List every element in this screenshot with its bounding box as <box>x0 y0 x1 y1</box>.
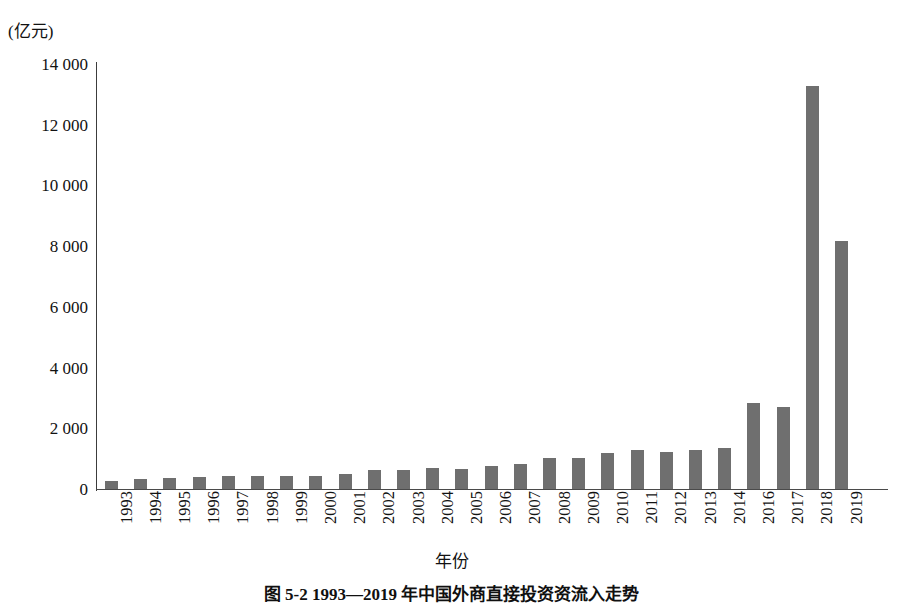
x-axis-tick-label: 1993 <box>119 491 135 551</box>
y-axis-tick-label: 14 000 <box>2 56 88 73</box>
x-axis-tick-label: 2007 <box>527 491 543 551</box>
y-axis-tick-label: 8 000 <box>2 238 88 255</box>
bar <box>485 466 498 489</box>
x-axis-tick-label: 2018 <box>819 491 835 551</box>
x-axis-tick-labels: 1993199419951996199719981999200020012002… <box>96 493 888 553</box>
x-axis-tick-label: 2014 <box>732 491 748 551</box>
x-axis-tick-label: 2013 <box>703 491 719 551</box>
bar <box>251 476 264 489</box>
bar <box>572 458 585 489</box>
x-axis-tick-label: 2006 <box>498 491 514 551</box>
bar <box>660 452 673 489</box>
x-axis-tick-label: 2008 <box>557 491 573 551</box>
x-axis-tick-label: 2005 <box>469 491 485 551</box>
x-axis-tick-label: 2010 <box>615 491 631 551</box>
bar <box>163 478 176 489</box>
bar <box>631 450 644 489</box>
bar <box>339 474 352 489</box>
x-axis-tick-label: 1996 <box>206 491 222 551</box>
x-axis-tick-label: 2017 <box>790 491 806 551</box>
bar <box>134 479 147 489</box>
bar <box>514 464 527 490</box>
x-axis-tick-label: 2003 <box>411 491 427 551</box>
bar-series <box>96 64 886 489</box>
x-axis-tick-label: 2004 <box>440 491 456 551</box>
figure-caption: 图 5-2 1993—2019 年中国外商直接投资资流入走势 <box>0 584 903 606</box>
bar <box>806 86 819 489</box>
x-axis-tick-label: 1997 <box>235 491 251 551</box>
x-axis-tick-label: 1998 <box>265 491 281 551</box>
bar <box>222 476 235 489</box>
x-axis-tick-label: 2002 <box>381 491 397 551</box>
figure-container: (亿元) 02 0004 0006 0008 00010 00012 00014… <box>0 0 903 606</box>
bar <box>718 448 731 489</box>
bar <box>105 481 118 490</box>
y-axis-tick-label: 0 <box>2 481 88 498</box>
y-axis-tick-labels: 02 0004 0006 0008 00010 00012 00014 000 <box>0 0 88 606</box>
y-axis-tick-label: 4 000 <box>2 359 88 376</box>
bar <box>368 470 381 489</box>
bar <box>397 470 410 489</box>
x-axis-tick-label: 2001 <box>352 491 368 551</box>
bar <box>193 477 206 489</box>
y-axis-tick-label: 12 000 <box>2 116 88 133</box>
bar <box>601 453 614 489</box>
y-axis-tick-label: 10 000 <box>2 177 88 194</box>
x-axis-tick-label: 1999 <box>294 491 310 551</box>
bar <box>455 469 468 489</box>
bar <box>777 407 790 489</box>
x-axis-tick-label: 2016 <box>761 491 777 551</box>
x-axis-tick-label: 2012 <box>673 491 689 551</box>
x-axis-tick-label: 2019 <box>849 491 865 551</box>
bar <box>543 458 556 489</box>
bar <box>747 403 760 489</box>
x-axis-title: 年份 <box>0 552 903 572</box>
x-axis-tick-label: 2011 <box>644 491 660 551</box>
x-axis-tick-label: 2000 <box>323 491 339 551</box>
plot-area <box>96 64 886 489</box>
y-axis-tick-label: 2 000 <box>2 420 88 437</box>
bar <box>689 450 702 489</box>
bar <box>426 468 439 489</box>
x-axis-line <box>96 489 888 490</box>
x-axis-tick-label: 2009 <box>586 491 602 551</box>
bar <box>835 241 848 489</box>
x-axis-tick-label: 1995 <box>177 491 193 551</box>
bar <box>280 476 293 489</box>
x-axis-tick-label: 1994 <box>148 491 164 551</box>
bar <box>309 476 322 489</box>
y-axis-tick-label: 6 000 <box>2 298 88 315</box>
